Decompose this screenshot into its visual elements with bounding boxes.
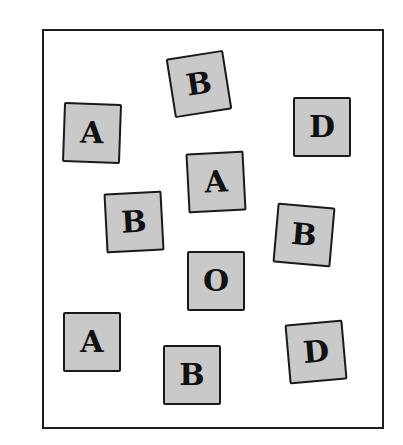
tile-letter: D bbox=[309, 112, 335, 142]
letter-tile: B bbox=[166, 50, 233, 118]
letter-tile: B bbox=[103, 191, 164, 254]
tile-letter: A bbox=[80, 118, 104, 149]
letter-tile: D bbox=[293, 97, 351, 157]
tile-letter: A bbox=[80, 327, 103, 357]
tile-letter: D bbox=[302, 336, 331, 368]
tile-letter: B bbox=[121, 206, 148, 237]
tile-letter: B bbox=[184, 67, 214, 101]
letter-tile: B bbox=[272, 203, 335, 268]
letter-tile: O bbox=[187, 251, 245, 311]
letter-tile: A bbox=[62, 102, 122, 164]
letter-tile: A bbox=[185, 151, 246, 214]
tile-letter: A bbox=[204, 166, 229, 197]
tile-letter: B bbox=[290, 219, 318, 251]
letter-tile: D bbox=[284, 320, 347, 385]
letter-tile: B bbox=[163, 345, 221, 405]
tile-letter: B bbox=[179, 360, 204, 390]
letter-tile: A bbox=[63, 312, 121, 372]
tile-letter: O bbox=[203, 266, 229, 296]
